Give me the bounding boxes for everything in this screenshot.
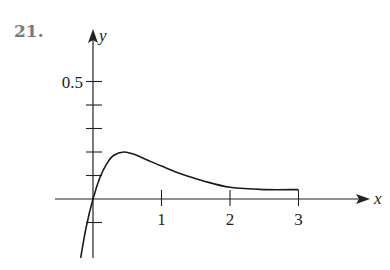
x-tick-label: 3 — [294, 210, 303, 229]
axis-ticks: 1230.5 — [62, 73, 303, 230]
x-tick-label: 1 — [157, 210, 166, 229]
function-curve — [81, 152, 299, 258]
x-axis: x — [55, 189, 382, 208]
graph: x y 1230.5 — [0, 0, 390, 270]
y-axis-label: y — [97, 26, 107, 45]
x-tick-label: 2 — [226, 210, 235, 229]
y-tick-label: 0.5 — [62, 73, 83, 92]
y-axis: y — [88, 26, 107, 258]
x-axis-label: x — [373, 189, 382, 208]
